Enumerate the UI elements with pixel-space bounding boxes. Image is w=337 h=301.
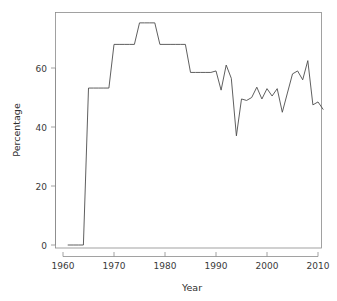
x-tick-label-1970: 1970 (103, 261, 126, 271)
y-axis: 60 40 20 0 (36, 64, 56, 251)
x-tick-label-2010: 2010 (307, 261, 330, 271)
y-tick-label-20: 20 (36, 182, 48, 192)
y-tick-label-60: 60 (36, 64, 48, 74)
y-tick-label-0: 0 (41, 241, 47, 251)
x-tick-label-2000: 2000 (256, 261, 279, 271)
chart-figure: 60 40 20 0 1960 1970 1980 1990 2000 2010… (0, 0, 337, 301)
y-axis-title: Percentage (11, 103, 22, 157)
x-tick-label-1990: 1990 (205, 261, 228, 271)
x-axis-title: Year (181, 282, 202, 293)
x-tick-label-1980: 1980 (154, 261, 177, 271)
plot-panel-border (56, 13, 322, 249)
x-tick-label-1960: 1960 (52, 261, 75, 271)
line-chart-canvas: 60 40 20 0 1960 1970 1980 1990 2000 2010… (0, 0, 337, 301)
y-tick-label-40: 40 (36, 123, 48, 133)
data-series-percentage (68, 23, 323, 245)
x-axis: 1960 1970 1980 1990 2000 2010 (52, 252, 330, 271)
